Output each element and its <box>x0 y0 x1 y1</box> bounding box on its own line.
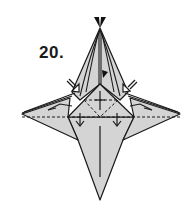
push-arrow-right <box>123 80 137 92</box>
bottom-point <box>68 117 134 200</box>
top-tip-black-wedges <box>94 17 106 28</box>
origami-diagram <box>0 0 195 214</box>
